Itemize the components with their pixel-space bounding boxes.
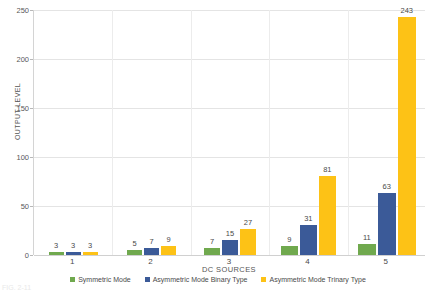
bar-value-label: 243 [401,6,414,15]
bar-group: 93181 [269,10,347,255]
bar[interactable] [300,225,317,255]
bar[interactable] [222,240,238,255]
bar[interactable] [358,244,376,255]
bar[interactable] [204,248,220,255]
plot-area: 33357971527931811163243 [33,10,425,255]
bar-value-label: 3 [88,241,92,250]
bar-group: 1163243 [348,10,426,255]
bar[interactable] [83,252,98,255]
bar-value-label: 3 [54,241,58,250]
x-axis-category-label: 5 [347,257,425,266]
bar-value-label: 27 [244,218,252,227]
y-axis-tick-label: 100 [5,153,29,162]
x-axis-category-label: 3 [190,257,268,266]
x-axis-title: DC SOURCES [33,265,425,274]
y-axis-tick-label: 150 [5,104,29,113]
bar[interactable] [281,246,298,255]
bar-value-label: 9 [287,235,291,244]
bar-value-label: 81 [323,165,331,174]
bar-value-label: 31 [304,214,312,223]
bar[interactable] [144,248,159,255]
y-axis-tickmark [30,206,33,207]
bar-value-label: 9 [166,235,170,244]
bar[interactable] [49,252,64,255]
legend-item[interactable]: Symmetric Mode [70,276,131,283]
bar-group: 579 [112,10,190,255]
legend-label: Asymmetric Mode Trinary Type [269,276,365,283]
bar[interactable] [398,17,416,255]
category-divider [191,10,192,255]
legend-label: Asymmetric Mode Binary Type [153,276,248,283]
bar-value-label: 63 [383,182,391,191]
y-axis-tickmark [30,255,33,256]
category-divider [348,10,349,255]
bar[interactable] [66,252,81,255]
y-axis-tick-label: 50 [5,202,29,211]
legend-swatch-icon [261,277,266,282]
bar-group: 333 [34,10,112,255]
y-axis-tick-label: 200 [5,55,29,64]
bar[interactable] [240,229,256,255]
bar-value-label: 11 [363,233,371,242]
figure-caption: FIG. 2-11 [2,284,31,291]
bar[interactable] [127,250,142,255]
y-axis-tickmark [30,108,33,109]
bar[interactable] [161,246,176,255]
y-axis-tickmark [30,157,33,158]
bar-chart: OUTPUT LEVEL 33357971527931811163243 DC … [0,0,436,296]
y-axis-tickmark [30,10,33,11]
legend-swatch-icon [70,277,75,282]
chart-legend: Symmetric ModeAsymmetric Mode Binary Typ… [0,276,436,283]
bar-value-label: 7 [149,237,153,246]
bar-group: 71527 [191,10,269,255]
y-axis-tickmark [30,59,33,60]
x-axis-category-label: 4 [268,257,346,266]
legend-swatch-icon [145,277,150,282]
bar[interactable] [378,193,396,255]
category-divider [269,10,270,255]
bar-value-label: 3 [71,241,75,250]
x-axis-category-label: 2 [111,257,189,266]
bar-value-label: 15 [226,229,234,238]
gridline [34,255,425,256]
x-axis-category-label: 1 [33,257,111,266]
y-axis-tick-label: 250 [5,6,29,15]
bar[interactable] [319,176,336,255]
legend-item[interactable]: Asymmetric Mode Binary Type [145,276,248,283]
bar-value-label: 5 [132,239,136,248]
legend-item[interactable]: Asymmetric Mode Trinary Type [261,276,365,283]
legend-label: Symmetric Mode [78,276,131,283]
y-axis-tick-label: 0 [5,251,29,260]
bar-value-label: 7 [210,237,214,246]
category-divider [112,10,113,255]
